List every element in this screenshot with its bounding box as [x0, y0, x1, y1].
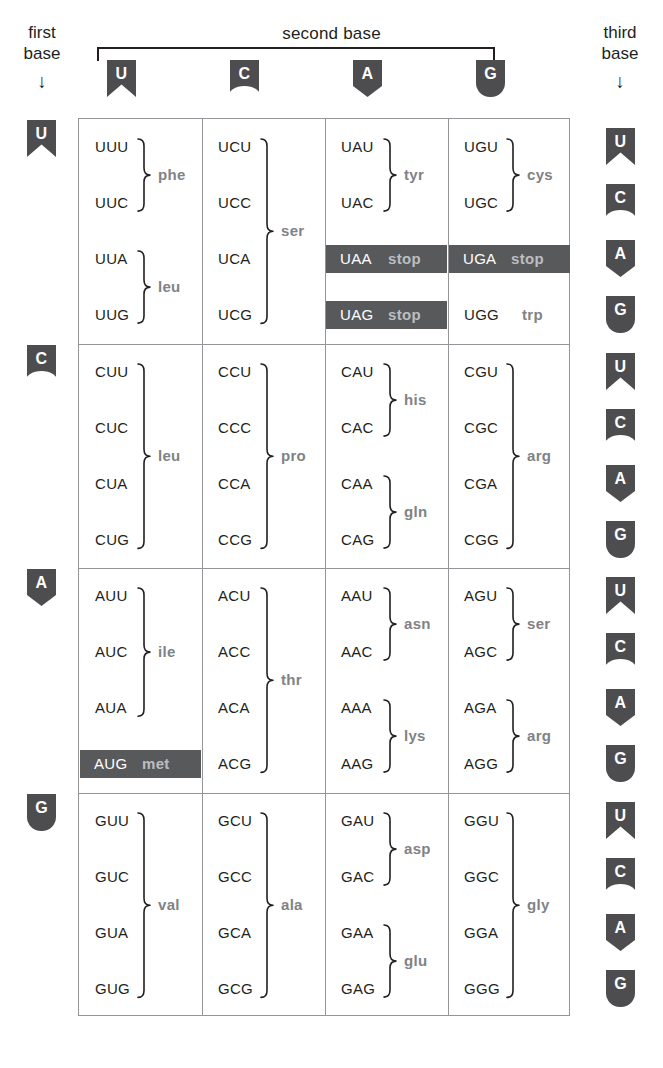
highlight-band-stop: UAAstop	[326, 245, 447, 273]
second-base-label: second base	[0, 24, 663, 44]
codon-ugg: UGG	[464, 306, 499, 323]
codon-cell-cu: CUUCUCCUACUGleu	[79, 344, 202, 569]
codon-aca: ACA	[218, 699, 250, 716]
third-base-badge-g-3: G	[606, 296, 635, 333]
amino-acid-leu: leu	[158, 278, 181, 295]
brace-glu-14-1	[383, 924, 400, 998]
codon-aaa: AAA	[341, 699, 372, 716]
codon-acu: ACU	[218, 587, 251, 604]
codon-cuc: CUC	[95, 419, 128, 436]
codon-ggc: GGC	[464, 868, 499, 885]
codon-ugc: UGC	[464, 194, 498, 211]
base-letter: C	[27, 345, 56, 372]
first-base-badge-a: A	[27, 569, 56, 606]
codon-aua: AUA	[95, 699, 127, 716]
codon-gug: GUG	[95, 980, 130, 997]
codon-uua: UUA	[95, 250, 128, 267]
codon-ggu: GGU	[464, 812, 499, 829]
codon-cell-ag: AGUAGCserAGAAGGarg	[448, 568, 571, 793]
third-base-badge-c-9: C	[606, 633, 635, 670]
amino-acid-pro: pro	[281, 447, 306, 464]
codon-ugu: UGU	[464, 138, 498, 155]
codon-cca: CCA	[218, 475, 251, 492]
third-base-label-line2: base	[588, 43, 652, 64]
second-base-bracket	[97, 47, 495, 61]
brace-gly-15-0	[506, 812, 523, 998]
codon-gcc: GCC	[218, 868, 252, 885]
amino-acid-phe: phe	[158, 166, 186, 183]
base-letter: C	[606, 858, 635, 885]
base-letter: C	[606, 409, 635, 436]
codon-cag: CAG	[341, 531, 374, 548]
amino-acid-val: val	[158, 896, 180, 913]
amino-acid-gln: gln	[404, 503, 427, 520]
codon-aug: AUG	[94, 755, 127, 772]
brace-arg-11-1	[506, 699, 523, 773]
codon-uga: UGA	[463, 250, 496, 267]
codon-ucg: UCG	[218, 306, 252, 323]
brace-asp-14-0	[383, 812, 400, 886]
codon-gcg: GCG	[218, 980, 253, 997]
codon-cell-uc: UCUUCCUCAUCGser	[202, 119, 325, 344]
amino-acid-his: his	[404, 391, 427, 408]
second-base-badge-a-2: A	[353, 60, 382, 97]
base-letter: C	[606, 633, 635, 660]
brace-asn-10-0	[383, 587, 400, 661]
codon-cell-uu: UUUUUCpheUUAUUGleu	[79, 119, 202, 344]
base-letter: U	[606, 128, 635, 155]
codon-gcu: GCU	[218, 812, 252, 829]
codon-gau: GAU	[341, 812, 374, 829]
codon-ucu: UCU	[218, 138, 251, 155]
amino-acid-cys: cys	[527, 166, 553, 183]
amino-acid-lys: lys	[404, 727, 426, 744]
highlight-band-stop: UAGstop	[326, 301, 447, 329]
third-base-badge-u-8: U	[606, 577, 635, 614]
first-base-badge-u: U	[27, 120, 56, 157]
third-base-badge-u-0: U	[606, 128, 635, 165]
codon-uug: UUG	[95, 306, 129, 323]
codon-cell-aa: AAUAACasnAAAAAGlys	[325, 568, 448, 793]
amino-acid-arg: arg	[527, 727, 551, 744]
brace-thr-9-0	[260, 587, 277, 773]
codon-cuu: CUU	[95, 363, 128, 380]
brace-ser-1-0	[260, 138, 277, 324]
codon-cgu: CGU	[464, 363, 498, 380]
codon-ucc: UCC	[218, 194, 251, 211]
amino-acid-tyr: tyr	[404, 166, 424, 183]
brace-tyr-2-0	[383, 138, 400, 212]
amino-acid-leu: leu	[158, 447, 181, 464]
amino-acid-arg: arg	[527, 447, 551, 464]
amino-acid-trp: trp	[522, 306, 543, 323]
amino-acid-asn: asn	[404, 615, 431, 632]
codon-cgc: CGC	[464, 419, 498, 436]
first-base-badge-c: C	[27, 345, 56, 382]
codon-uca: UCA	[218, 250, 251, 267]
codon-ccg: CCG	[218, 531, 252, 548]
codon-cell-ua: UAUUACtyrUAAstopUAGstop	[325, 119, 448, 344]
brace-phe-0-0	[137, 138, 154, 212]
base-letter: G	[606, 521, 635, 548]
highlight-band-stop: UGAstop	[449, 245, 570, 273]
third-base-badge-g-7: G	[606, 521, 635, 558]
third-base-badge-g-15: G	[606, 970, 635, 1007]
codon-gaa: GAA	[341, 924, 374, 941]
brace-lys-10-1	[383, 699, 400, 773]
codon-uuu: UUU	[95, 138, 128, 155]
brace-ser-11-0	[506, 587, 523, 661]
codon-aga: AGA	[464, 699, 497, 716]
base-letter: A	[27, 569, 56, 596]
codon-cgg: CGG	[464, 531, 499, 548]
codon-uaa: UAA	[340, 250, 372, 267]
base-letter: C	[230, 60, 259, 87]
amino-acid-thr: thr	[281, 671, 302, 688]
codon-cua: CUA	[95, 475, 128, 492]
codon-agg: AGG	[464, 755, 498, 772]
third-base-badge-a-14: A	[606, 914, 635, 951]
second-base-badge-u-0: U	[107, 60, 136, 97]
highlight-band-met: AUGmet	[80, 750, 201, 778]
codon-uag: UAG	[340, 306, 373, 323]
third-base-badge-g-11: G	[606, 745, 635, 782]
brace-leu-4-0	[137, 363, 154, 549]
amino-acid-glu: glu	[404, 952, 427, 969]
codon-cell-gu: GUUGUCGUAGUGval	[79, 793, 202, 1018]
